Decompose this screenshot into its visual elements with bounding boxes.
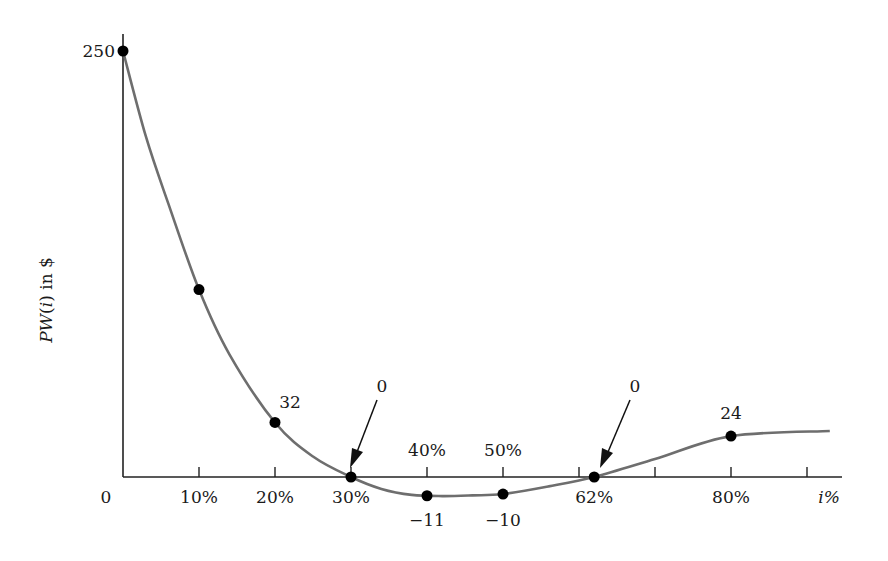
data-point	[422, 490, 433, 501]
x-tick-label: 80%	[712, 487, 750, 507]
data-point	[270, 417, 281, 428]
point-label: −11	[409, 510, 445, 530]
zero-arrow-30: 0	[350, 376, 387, 468]
x-axis-label: i%	[818, 487, 840, 507]
x-tick-label: 40%	[408, 440, 446, 460]
annotation-zero-62: 0	[630, 376, 641, 396]
labels: 010%20%30%40%50%62%80%25032−11−1024	[83, 41, 750, 530]
data-point	[589, 472, 600, 483]
x-tick-label: 30%	[332, 487, 370, 507]
x-tick-label: 0	[101, 487, 112, 507]
data-point	[726, 431, 737, 442]
point-label: 32	[279, 392, 301, 412]
pw-chart: 010%20%30%40%50%62%80%25032−11−1024 PW(i…	[0, 0, 888, 561]
y-axis-label: PW(i) in $	[36, 257, 56, 344]
data-point	[346, 472, 357, 483]
data-points	[118, 46, 737, 502]
x-tick-label: 20%	[256, 487, 294, 507]
data-point	[118, 46, 129, 57]
x-tick-label: 50%	[484, 440, 522, 460]
annotation-zero-30: 0	[377, 376, 388, 396]
x-tick-label: 10%	[180, 487, 218, 507]
x-ticks	[199, 467, 807, 477]
x-tick-label: 62%	[575, 487, 613, 507]
pw-curve	[123, 51, 830, 496]
data-point	[194, 284, 205, 295]
point-label: 24	[720, 403, 742, 423]
y-tick-label: 250	[83, 41, 115, 61]
data-point	[498, 489, 509, 500]
point-label: −10	[485, 510, 521, 530]
zero-arrow-62: 0	[600, 376, 640, 468]
